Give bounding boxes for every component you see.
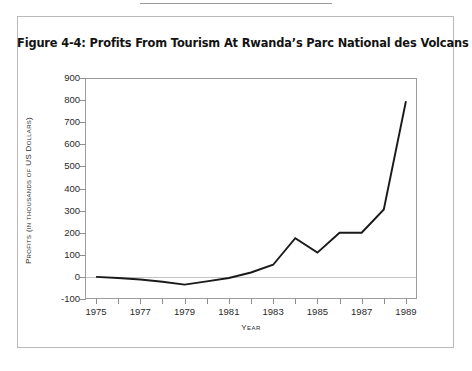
line-chart: -1000100200300400500600700800900 1975197… [0,0,472,371]
y-axis-title: Profits (in thousands of US Dollars) [24,101,33,281]
series-layer [0,0,472,371]
page-canvas: Figure 4-4: Profits From Tourism At Rwan… [0,0,472,371]
x-axis-title: Year [85,323,417,332]
profits-series-line [96,101,406,284]
